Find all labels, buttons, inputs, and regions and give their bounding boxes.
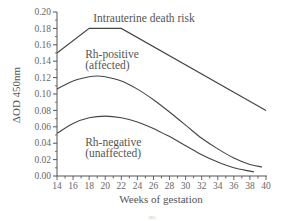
label-unaffected: (unaffected) xyxy=(85,147,141,160)
y-axis-title: ΔOD 450nm xyxy=(10,66,22,123)
y-tick-label: 0.08 xyxy=(34,106,51,116)
x-tick-label: 24 xyxy=(133,181,143,191)
x-tick-label: 26 xyxy=(149,181,159,191)
annotation-layer: Intrauterine death riskRh-positive(affec… xyxy=(85,12,195,160)
x-tick-label: 28 xyxy=(165,181,175,191)
x-tick-label: 22 xyxy=(117,181,127,191)
x-tick-label: 36 xyxy=(229,181,239,191)
x-tick-label: 32 xyxy=(197,181,207,191)
y-tick-label: 0.10 xyxy=(34,89,51,99)
x-tick-label: 34 xyxy=(213,181,223,191)
x-axis-title: Weeks of gestation xyxy=(119,193,203,205)
y-tick-label: 0.04 xyxy=(34,138,51,148)
label-affected: (affected) xyxy=(85,59,130,72)
x-tick-label: 14 xyxy=(52,181,62,191)
y-tick-label: 0.12 xyxy=(34,73,51,83)
chart: 0.000.020.040.060.080.100.120.140.160.18… xyxy=(0,0,284,221)
label-intrauterine-death-risk: Intrauterine death risk xyxy=(93,12,195,24)
x-tick-label: 38 xyxy=(245,181,255,191)
y-tick-label: 0.20 xyxy=(34,7,51,17)
y-tick-label: 0.16 xyxy=(34,40,51,50)
y-tick-label: 0.18 xyxy=(34,24,51,34)
x-tick-label: 18 xyxy=(84,181,94,191)
y-tick-label: 0.14 xyxy=(34,56,51,66)
panel-label: (B) xyxy=(149,215,156,220)
x-tick-label: 30 xyxy=(181,181,191,191)
y-tick-label: 0.06 xyxy=(34,122,51,132)
x-tick-label: 40 xyxy=(261,181,271,191)
y-tick-label: 0.02 xyxy=(34,155,51,165)
x-tick-label: 16 xyxy=(68,181,78,191)
y-axis: 0.000.020.040.060.080.100.120.140.160.18… xyxy=(34,7,57,181)
x-tick-label: 20 xyxy=(100,181,110,191)
x-axis: 1416182022242628303234363840 xyxy=(52,176,271,191)
y-tick-label: 0.00 xyxy=(34,171,51,181)
